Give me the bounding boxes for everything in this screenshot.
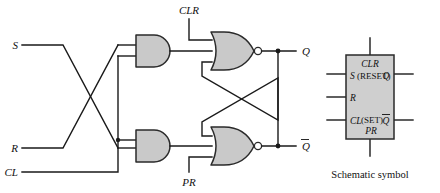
nor-gate-top [211,32,262,70]
nor-gate-bottom [211,127,262,165]
label-output-q: Q [302,45,310,57]
symbol-label-set: (SET) [361,115,383,125]
symbol-label-q: Q [383,71,390,81]
wire-cl-input [22,56,136,172]
schematic-symbol-caption: Schematic symbol [331,169,408,180]
label-output-qbar: Q [302,140,310,152]
symbol-label-r: R [349,93,356,103]
logic-circuit-diagram: S R CL CLR PR Q Q [0,0,440,193]
label-input-s: S [13,39,19,51]
label-input-cl: CL [5,166,18,178]
symbol-label-qbar: Q [383,116,390,126]
wire-pr-input [189,157,212,172]
inversion-bubble-top [254,47,261,54]
label-input-pr: PR [181,176,196,188]
junction-cl-bottom [116,138,120,142]
wire-clr-input [189,19,212,40]
and-gate-top [136,35,170,67]
wire-r-input [22,45,118,148]
wire-qbar-output [262,144,296,149]
label-input-r: R [10,142,18,154]
and-gate-bottom [136,130,170,162]
figure-root: S R CL CLR PR Q Q [0,0,440,193]
symbol-label-qbar-group: Q [382,115,390,127]
inversion-bubble-bottom [254,142,261,149]
label-output-qbar-group: Q [301,140,310,153]
label-input-clr: CLR [179,4,199,16]
wire-q-output [262,49,296,54]
symbol-label-s: S [350,71,355,81]
symbol-label-clr: CLR [361,59,379,69]
wire-s-input [22,45,118,148]
symbol-label-cl: CL [350,116,362,126]
symbol-label-pr: PR [364,126,377,136]
